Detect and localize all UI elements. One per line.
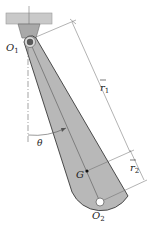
o1-label: O1 [6,42,19,55]
pendulum-diagram: θ O1 O2 G r1 r2 [0,0,156,239]
center-of-mass-dot [85,169,88,172]
pendulum-link [24,36,128,211]
pivot-o1-pin [27,39,33,45]
o2-label: O2 [92,210,105,223]
r1-dimension-tick-top [70,19,76,24]
theta-label: θ [37,138,43,148]
link-centerline [30,42,100,202]
g-label: G [76,169,84,180]
r2-label: r2 [130,162,139,175]
r1-label: r1 [100,82,109,95]
pivot-o2-hole [96,198,104,206]
